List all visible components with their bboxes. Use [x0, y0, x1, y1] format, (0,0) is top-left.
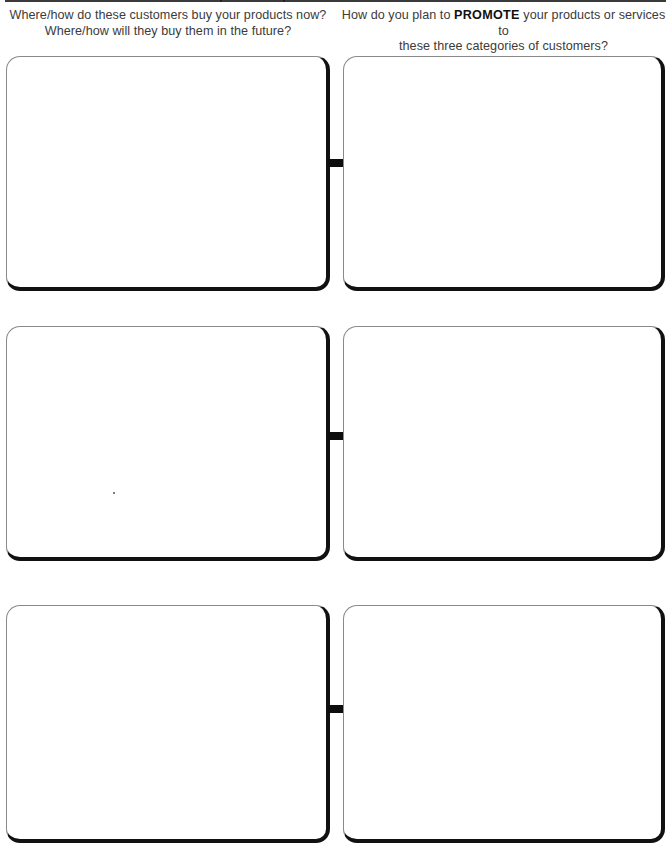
question-left-line-1: Where/how do these customers buy your pr… — [0, 8, 336, 24]
answer-box-row2-left[interactable] — [6, 326, 330, 561]
promote-emphasis: PROMOTE — [454, 8, 520, 22]
question-left-line-2: Where/how will they buy them in the futu… — [0, 24, 336, 40]
header-rule-tick — [283, 0, 285, 2]
question-right-line-2: these three categories of customers? — [336, 39, 671, 55]
answer-box-row1-right[interactable] — [343, 56, 665, 291]
stray-mark — [113, 492, 115, 494]
answer-box-row1-left[interactable] — [6, 56, 330, 291]
answer-box-row3-left[interactable] — [6, 605, 330, 843]
answer-box-row2-right[interactable] — [343, 326, 665, 561]
question-right-line-1: How do you plan to PROMOTE your products… — [336, 8, 671, 39]
question-how-promote: How do you plan to PROMOTE your products… — [336, 8, 671, 55]
question-right-text-after: your products or services to — [498, 8, 665, 38]
header-rule-tick — [220, 0, 222, 2]
question-right-text-before: How do you plan to — [342, 8, 454, 22]
header-rule — [5, 0, 666, 2]
question-where-how-buy: Where/how do these customers buy your pr… — [0, 8, 336, 39]
answer-box-row3-right[interactable] — [343, 605, 665, 843]
